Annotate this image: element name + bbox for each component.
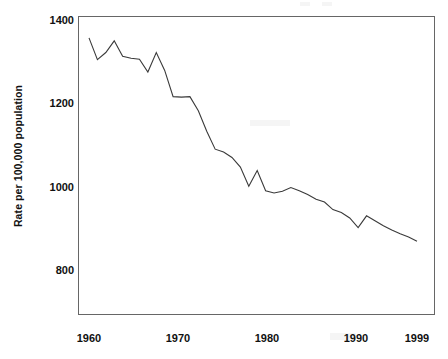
line-chart-figure: Rate per 100,000 population 1400 1200 10… <box>0 0 448 359</box>
plot-area <box>0 0 448 359</box>
plot-frame-border <box>79 17 435 315</box>
data-series-line <box>89 38 417 241</box>
